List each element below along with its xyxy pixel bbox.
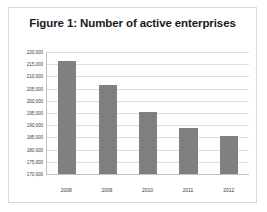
y-axis-tick-label: 195,000 bbox=[27, 111, 43, 116]
y-axis-tick-label: 200,000 bbox=[27, 98, 43, 103]
y-axis-tick-label: 220,000 bbox=[27, 50, 43, 55]
x-axis-tick-slot: 2012 bbox=[208, 178, 249, 196]
bar-slot bbox=[128, 52, 168, 174]
x-axis-tick-slot: 2008 bbox=[46, 178, 87, 196]
y-axis-tick-label: 175,000 bbox=[27, 159, 43, 164]
y-axis-tick-label: 190,000 bbox=[27, 123, 43, 128]
y-axis-tick-label: 185,000 bbox=[27, 135, 43, 140]
chart-plot: 220,000215,000210,000205,000200,000195,0… bbox=[9, 52, 258, 200]
bar-2008[interactable] bbox=[58, 61, 76, 174]
x-axis-tick-label: 2009 bbox=[101, 187, 112, 193]
bar-2010[interactable] bbox=[139, 112, 157, 174]
x-axis-tick-label: 2011 bbox=[183, 187, 194, 193]
x-axis-tick-slot: 2009 bbox=[87, 178, 128, 196]
bar-series bbox=[47, 52, 249, 174]
y-axis-tick-label: 180,000 bbox=[27, 147, 43, 152]
x-axis-tick-label: 2010 bbox=[142, 187, 153, 193]
bar-2009[interactable] bbox=[99, 85, 117, 174]
bar-slot bbox=[168, 52, 208, 174]
bar-slot bbox=[47, 52, 87, 174]
bar-2011[interactable] bbox=[179, 128, 197, 174]
bar-2012[interactable] bbox=[220, 136, 238, 174]
x-axis-tick-slot: 2010 bbox=[127, 178, 168, 196]
bar-slot bbox=[87, 52, 127, 174]
y-axis-tick-label: 170,000 bbox=[27, 172, 43, 177]
y-axis: 220,000215,000210,000205,000200,000195,0… bbox=[9, 52, 45, 174]
bar-slot bbox=[209, 52, 249, 174]
x-axis-tick-label: 2008 bbox=[61, 187, 72, 193]
y-axis-tick-label: 205,000 bbox=[27, 86, 43, 91]
x-axis: 20082009201020112012 bbox=[46, 178, 249, 196]
chart-title: Figure 1: Number of active enterprises bbox=[9, 17, 256, 30]
y-axis-tick-label: 210,000 bbox=[27, 74, 43, 79]
figure-frame: Figure 1: Number of active enterprises 2… bbox=[8, 7, 257, 203]
x-axis-tick-label: 2012 bbox=[223, 187, 234, 193]
plot-area bbox=[46, 52, 249, 175]
x-axis-tick-slot: 2011 bbox=[168, 178, 209, 196]
y-axis-tick-label: 215,000 bbox=[27, 62, 43, 67]
